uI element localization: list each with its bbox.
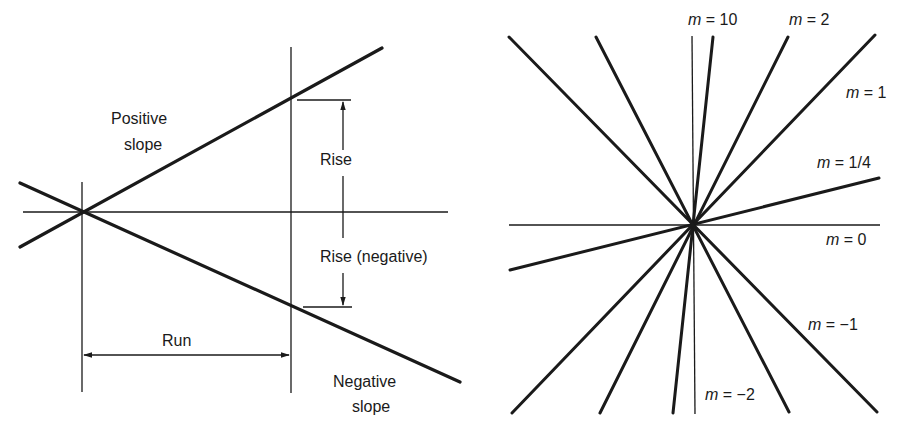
negative-slope-label-1: Negative bbox=[333, 373, 396, 390]
left-panel: Positive slope Rise Rise (negative) Run … bbox=[20, 47, 460, 415]
negative-slope-line bbox=[20, 183, 460, 382]
positive-slope-label-1: Positive bbox=[111, 110, 167, 127]
label-m-1-4: m = 1/4 bbox=[817, 154, 871, 171]
label-m-1: m = 1 bbox=[846, 84, 887, 101]
label-m-neg2: m = −2 bbox=[705, 386, 755, 403]
label-m-2: m = 2 bbox=[789, 11, 830, 28]
slope-diagram: Positive slope Rise Rise (negative) Run … bbox=[0, 0, 899, 427]
rise-negative-label: Rise (negative) bbox=[320, 248, 428, 265]
rise-label: Rise bbox=[320, 151, 352, 168]
right-panel: m = 10 m = 2 m = 1 m = 1/4 m = 0 m = −1 … bbox=[509, 11, 887, 414]
positive-slope-line bbox=[20, 48, 382, 247]
negative-slope-label-2: slope bbox=[352, 398, 390, 415]
run-label: Run bbox=[162, 332, 191, 349]
label-m-10: m = 10 bbox=[688, 11, 737, 28]
positive-slope-label-2: slope bbox=[124, 136, 162, 153]
label-m-neg1: m = −1 bbox=[808, 316, 858, 333]
label-m-0: m = 0 bbox=[826, 231, 867, 248]
